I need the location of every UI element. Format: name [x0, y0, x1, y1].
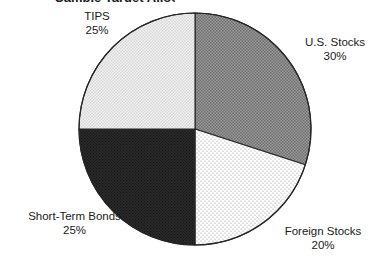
pie-label-foreign-stocks-name: Foreign Stocks: [272, 224, 374, 238]
pie-chart-figure: Sample Target Allocation: [0, 0, 378, 261]
pie-label-short-term-bonds-name: Short-Term Bonds: [12, 209, 137, 223]
pie-label-tips: TIPS 25%: [70, 9, 124, 37]
pie-label-tips-value: 25%: [70, 23, 124, 37]
pie-label-us-stocks: U.S. Stocks 30%: [295, 35, 375, 63]
pie-label-short-term-bonds-value: 25%: [12, 223, 137, 237]
pie-label-foreign-stocks: Foreign Stocks 20%: [272, 224, 374, 252]
pie-label-us-stocks-name: U.S. Stocks: [295, 35, 375, 49]
pie-label-tips-name: TIPS: [70, 9, 124, 23]
pie-label-us-stocks-value: 30%: [295, 49, 375, 63]
pie-label-short-term-bonds: Short-Term Bonds 25%: [12, 209, 137, 237]
pie-label-foreign-stocks-value: 20%: [272, 238, 374, 252]
